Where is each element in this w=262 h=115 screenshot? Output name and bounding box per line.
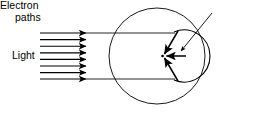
- electron-path-upper: [165, 31, 179, 54]
- light-ray-group: [40, 33, 86, 79]
- light-label: Light: [12, 50, 35, 62]
- tube-envelope-circle: [109, 8, 205, 104]
- electron-path-lower: [165, 58, 179, 81]
- electron-path-group: [165, 31, 187, 81]
- focus-point: [161, 55, 164, 58]
- physics-diagram-svg: [0, 0, 262, 115]
- figure-canvas: Light Electron paths: [0, 0, 262, 115]
